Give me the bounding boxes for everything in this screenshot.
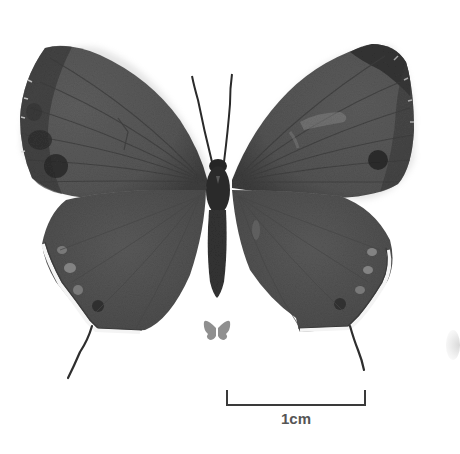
scale-bar <box>226 390 366 406</box>
right-hindwing <box>232 190 393 370</box>
butterfly-silhouette-icon <box>204 321 230 340</box>
left-hindwing <box>42 190 206 378</box>
edge-artifact <box>446 330 460 360</box>
left-forewing <box>20 46 208 198</box>
scale-label: 1cm <box>226 410 366 427</box>
right-forewing <box>232 44 414 198</box>
